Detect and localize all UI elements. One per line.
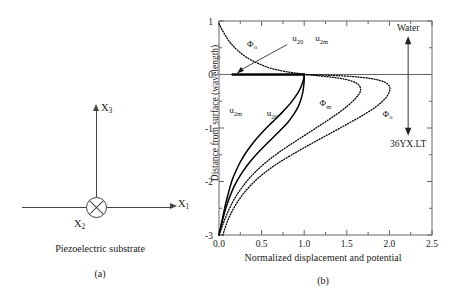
x-tick-label: 0.0 <box>213 239 225 249</box>
axis-label-x2-text: X <box>74 218 82 229</box>
curve-phi_o_substrate <box>223 75 390 236</box>
y-tick-label: -3 <box>205 231 213 241</box>
x2-into-page-circle-cross-icon <box>86 197 107 218</box>
u20-label: u20 <box>267 108 278 120</box>
y-tick-label: -2 <box>205 177 213 187</box>
u20-u2m-leader-arrowhead-icon <box>237 67 244 74</box>
u20-u2m-label-part1: u20 <box>292 33 303 45</box>
x1-axis-arrowhead-icon <box>170 203 177 209</box>
x3-axis-arrowhead-icon <box>93 104 99 111</box>
region-label-substrate: 36YX.LT <box>390 139 427 149</box>
panel-b-plot: Distance from surface (wavelength) 0.00.… <box>182 0 464 298</box>
axis-label-x2-subscript: 2 <box>82 222 86 231</box>
u20-u2m-label-part2: u2m <box>315 33 328 45</box>
x-tick-label: 0.5 <box>256 239 268 249</box>
x3-axis-line <box>96 110 97 208</box>
region-label-water: Water <box>397 23 420 33</box>
annotations-group: Φou20u2mu2mu20ΦmΦo <box>229 33 392 120</box>
axis-label-x2: X2 <box>74 218 85 229</box>
x-tick-label: 1.5 <box>341 239 353 249</box>
curve-phi_o_water <box>219 24 304 75</box>
plot-svg: 0.00.51.01.52.02.510-1-2-3 Φou20u2mu2mu2… <box>182 0 464 250</box>
axis-label-x3: X3 <box>101 102 112 113</box>
x-tick-label: 2.0 <box>383 239 395 249</box>
u2m-label: u2m <box>229 105 242 117</box>
panel-b-letter: (b) <box>192 275 454 286</box>
phi-m-label: Φm <box>320 98 332 110</box>
x-tick-label: 2.5 <box>426 239 438 249</box>
figure-container: X1 X3 X2 Piezoelectric substrate (a) Dis… <box>0 0 464 298</box>
panel-a-letter: (a) <box>0 268 200 279</box>
curve-phi_m <box>219 75 361 236</box>
panel-a-coordinate-diagram: X1 X3 X2 Piezoelectric substrate (a) <box>0 0 200 298</box>
region-indicator-group: Water36YX.LT <box>390 23 427 148</box>
x-tick-label: 1.0 <box>298 239 310 249</box>
curves-group <box>219 24 390 235</box>
phi-o-lower-label: Φo <box>383 109 393 121</box>
region-arrow-down-icon <box>405 128 411 136</box>
y-tick-label: 1 <box>208 17 213 27</box>
x-axis-title: Normalized displacement and potential <box>192 252 454 263</box>
axes-group: 0.00.51.01.52.02.510-1-2-3 <box>205 17 438 250</box>
axis-label-x3-subscript: 3 <box>109 106 113 115</box>
phi-o-upper-label: Φo <box>247 39 257 51</box>
y-tick-label: 0 <box>208 70 213 80</box>
axis-label-x3-text: X <box>101 102 109 113</box>
panel-a-substrate-caption: Piezoelectric substrate <box>0 243 200 254</box>
y-tick-label: -1 <box>205 124 213 134</box>
region-arrow-up-icon <box>405 36 411 44</box>
plot-frame <box>219 21 432 235</box>
